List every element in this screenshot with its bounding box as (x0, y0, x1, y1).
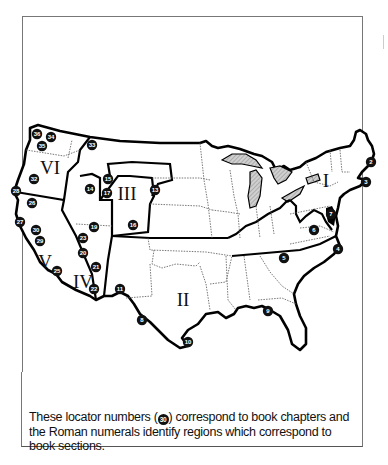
region-label: II (177, 289, 190, 310)
svg-text:30: 30 (33, 227, 40, 233)
locator-marker[interactable]: 22 (89, 284, 99, 294)
locator-marker[interactable]: 11 (115, 284, 125, 294)
svg-text:13: 13 (152, 187, 159, 193)
svg-text:14: 14 (87, 186, 94, 192)
locator-marker[interactable]: 16 (128, 220, 138, 230)
svg-text:25: 25 (54, 268, 61, 274)
locator-marker[interactable]: 13 (150, 185, 160, 195)
svg-text:35: 35 (39, 143, 46, 149)
region-label: III (118, 183, 137, 204)
locator-marker[interactable]: 36 (32, 129, 42, 139)
locator-marker[interactable]: 34 (46, 132, 56, 142)
region-label: VI (40, 157, 60, 178)
locator-marker[interactable]: 17 (102, 188, 112, 198)
svg-text:19: 19 (91, 224, 98, 230)
locator-marker[interactable]: 23 (78, 233, 88, 243)
locator-marker[interactable]: 5 (279, 253, 289, 263)
locator-marker[interactable]: 26 (27, 198, 37, 208)
svg-text:22: 22 (91, 286, 98, 292)
svg-text:34: 34 (48, 134, 55, 140)
locator-marker[interactable]: 7 (326, 209, 336, 219)
locator-marker[interactable]: 25 (52, 266, 62, 276)
svg-text:10: 10 (185, 339, 192, 345)
locator-marker[interactable]: 3 (361, 177, 371, 187)
locator-marker[interactable]: 6 (309, 225, 319, 235)
svg-text:27: 27 (17, 219, 24, 225)
locator-marker[interactable]: 27 (15, 217, 25, 227)
locator-marker[interactable]: 21 (91, 262, 101, 272)
region-label: I (323, 170, 329, 191)
caption-text-before: These locator numbers ( (29, 410, 158, 424)
locator-marker[interactable]: 28 (11, 186, 21, 196)
svg-text:33: 33 (89, 142, 96, 148)
region-label: V (38, 251, 52, 272)
map-caption: These locator numbers (30) correspond to… (29, 410, 359, 453)
svg-text:36: 36 (34, 131, 41, 137)
svg-text:28: 28 (13, 188, 20, 194)
svg-text:26: 26 (29, 200, 36, 206)
us-map: I II III IV V VI 2 3 4 5 6 7 8 9 10 11 1… (0, 0, 388, 380)
svg-text:17: 17 (104, 190, 111, 196)
locator-marker[interactable]: 35 (37, 141, 47, 151)
locator-marker[interactable]: 29 (35, 236, 45, 246)
svg-text:21: 21 (93, 264, 100, 270)
svg-text:32: 32 (31, 176, 38, 182)
svg-text:11: 11 (117, 286, 124, 292)
locator-marker[interactable]: 10 (183, 337, 193, 347)
locator-marker[interactable]: 4 (333, 244, 343, 254)
svg-text:15: 15 (105, 176, 112, 182)
svg-text:16: 16 (130, 222, 137, 228)
locator-marker[interactable]: 2 (366, 157, 376, 167)
locator-sample-icon: 30 (158, 414, 169, 425)
locator-marker[interactable]: 30 (31, 225, 41, 235)
locator-marker[interactable]: 8 (137, 315, 147, 325)
locator-marker[interactable]: 9 (263, 306, 273, 316)
locator-marker[interactable]: 19 (89, 222, 99, 232)
locator-marker[interactable]: 32 (29, 174, 39, 184)
locator-marker[interactable]: 14 (85, 184, 95, 194)
svg-text:20: 20 (80, 250, 87, 256)
locator-marker[interactable]: 15 (103, 174, 113, 184)
locator-marker[interactable]: 20 (78, 248, 88, 258)
svg-text:29: 29 (37, 238, 44, 244)
locator-marker[interactable]: 33 (87, 140, 97, 150)
svg-text:23: 23 (80, 235, 87, 241)
